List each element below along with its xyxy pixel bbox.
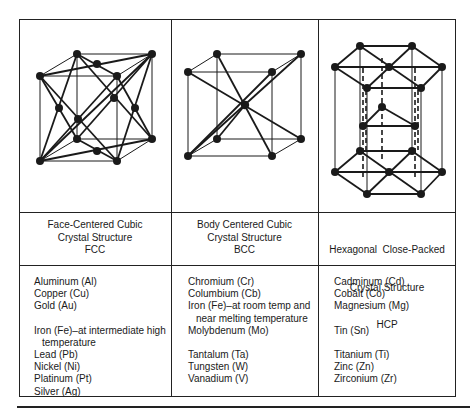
caption-line: FCC — [19, 244, 171, 257]
list-item: Zirconium (Zr) — [334, 373, 409, 385]
list-item: Gold (Au) — [34, 300, 166, 312]
caption-line: Body Centered Cubic — [171, 219, 318, 232]
list-item: Cadminum (Cd) — [334, 276, 409, 288]
list-item: Copper (Cu) — [34, 288, 166, 300]
hcp-element-list: Cadminum (Cd) Cobalt (Co) Magnesium (Mg)… — [334, 276, 409, 385]
list-item: Titanium (Ti) — [334, 349, 409, 361]
list-item: Lead (Pb) — [34, 349, 166, 361]
list-item: Aluminum (Al) — [34, 276, 166, 288]
list-item: Magnesium (Mg) — [334, 300, 409, 312]
fcc-unit-cell-icon — [36, 50, 156, 165]
hcp-unit-cell-icon — [331, 42, 446, 198]
caption-line: Crystal Structure — [19, 232, 171, 245]
fcc-element-list: Aluminum (Al) Copper (Cu) Gold (Au) Iron… — [34, 276, 166, 398]
list-item: Tantalum (Ta) — [188, 349, 310, 361]
bottom-rule — [17, 406, 470, 408]
bcc-element-list: Chromium (Cr) Columbium (Cb) Iron (Fe)–a… — [188, 276, 310, 386]
list-item: Columbium (Cb) — [188, 288, 310, 300]
caption-line: BCC — [171, 244, 318, 257]
list-item: Zinc (Zn) — [334, 361, 409, 373]
list-item: Chromium (Cr) — [188, 276, 310, 288]
list-item: Platinum (Pt) — [34, 373, 166, 385]
caption-line: Face-Centered Cubic — [19, 219, 171, 232]
bcc-unit-cell-icon — [184, 50, 305, 160]
fcc-caption: Face-Centered Cubic Crystal Structure FC… — [19, 219, 171, 257]
list-item: Nickel (Ni) — [34, 361, 166, 373]
list-item: Iron (Fe)–at room temp and — [188, 300, 310, 312]
list-item: Tungsten (W) — [188, 361, 310, 373]
list-item: Cobalt (Co) — [334, 288, 409, 300]
caption-line: Hexagonal Close-Packed — [318, 244, 456, 257]
list-item: Tin (Sn) — [334, 325, 409, 337]
list-item: Molybdenum (Mo) — [188, 325, 310, 337]
list-item: Silver (Ag) — [34, 386, 166, 398]
bcc-caption: Body Centered Cubic Crystal Structure BC… — [171, 219, 318, 257]
list-item: near melting temperature — [188, 313, 310, 325]
list-item: Iron (Fe)–at intermediate high — [34, 325, 166, 337]
list-item: temperature — [34, 337, 166, 349]
list-item: Vanadium (V) — [188, 373, 310, 385]
caption-line: Crystal Structure — [171, 232, 318, 245]
